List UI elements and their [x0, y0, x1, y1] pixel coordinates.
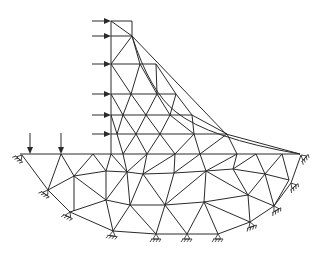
pin-support-icon — [297, 151, 310, 165]
pin-support-icon — [181, 234, 192, 242]
pin-support-icon — [269, 204, 283, 216]
arrow-right-icon — [92, 91, 111, 97]
arrow-right-icon — [92, 61, 111, 67]
dam-body — [111, 21, 300, 154]
arrow-right-icon — [92, 112, 111, 118]
fem-dam-mesh-diagram — [0, 0, 329, 262]
arrow-right-icon — [92, 18, 111, 24]
pin-support-icon — [212, 234, 223, 242]
arrow-down-icon — [27, 133, 33, 154]
arrow-down-icon — [58, 133, 64, 154]
pin-support-icon — [150, 234, 161, 242]
arrow-right-icon — [92, 131, 111, 137]
horizontal-load-arrows — [92, 18, 111, 137]
foundation-mesh — [20, 154, 301, 234]
vertical-load-arrows — [27, 133, 64, 154]
arrow-right-icon — [92, 33, 111, 39]
